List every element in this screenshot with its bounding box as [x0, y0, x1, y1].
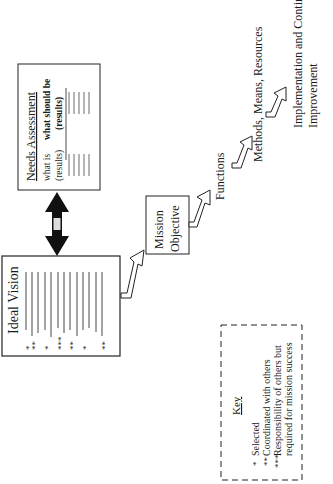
implementation-label: Implementation and Continuous — [291, 0, 305, 128]
improvement-label: Improvement — [306, 63, 320, 128]
key-label-selected: Selected — [250, 422, 261, 456]
key-box: Key * Selected ** Coordinated with other… — [221, 325, 302, 480]
double-arrow-icon — [45, 192, 69, 256]
arrow-functions-to-methods-icon — [232, 136, 252, 168]
arrow-mission-to-functions-icon — [189, 190, 210, 227]
what-is-label: what is — [42, 154, 52, 181]
what-is-sub: (results) — [54, 150, 65, 181]
key-symbol-1: * — [251, 461, 261, 466]
arrow-vision-to-mission-icon — [121, 250, 144, 298]
diagram-canvas: Needs Assessment what is (results) what … — [0, 0, 333, 484]
key-symbol-2: ** — [262, 457, 272, 467]
needs-assessment-box: Needs Assessment what is (results) what … — [18, 64, 100, 190]
functions-label: Functions — [213, 152, 227, 200]
ideal-vision-title: Ideal Vision — [6, 266, 21, 334]
svg-text:**: ** — [68, 341, 78, 351]
mission-label: Mission — [152, 210, 166, 249]
arrow-methods-to-implementation-icon — [266, 87, 286, 117]
mission-objective-box: Mission Objective — [146, 196, 189, 254]
svg-text:*: * — [81, 345, 91, 350]
methods-label: Methods, Means, Resources — [251, 26, 265, 162]
svg-text:*: * — [43, 345, 53, 350]
ideal-vision-box: Ideal Vision * ** * *** ** * ** — [2, 256, 120, 356]
objective-label: Objective — [168, 205, 182, 252]
needs-assessment-title: Needs Assessment — [24, 91, 38, 181]
svg-text:**: ** — [30, 341, 40, 351]
key-label-coordinated: Coordinated with others — [261, 359, 272, 456]
svg-text:**: ** — [100, 341, 110, 351]
key-title: Key — [230, 396, 242, 415]
what-should-be-label: what should be — [42, 79, 52, 140]
what-should-be-sub: (results) — [54, 97, 65, 130]
key-label-responsibility: Responsibility of others but — [272, 345, 283, 456]
svg-text:***: *** — [56, 336, 66, 350]
key-label-required: required for mission success — [283, 342, 294, 456]
